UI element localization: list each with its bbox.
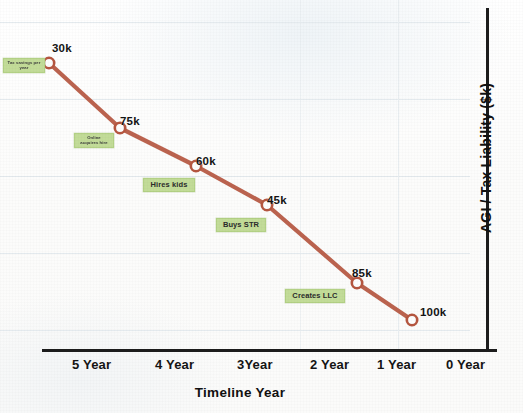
chart-page: 30k 75k 60k 45k 85k 100k Tax savings per… xyxy=(0,0,523,413)
annotation-tax-savings: Tax savings per year xyxy=(3,58,45,73)
annotation-hires-kids: Hires kids xyxy=(143,178,195,192)
x-tick-0-year: 0 Year xyxy=(446,357,485,372)
data-label-30k: 30k xyxy=(52,42,72,54)
x-tick-4-year: 4 Year xyxy=(155,357,194,372)
x-tick-5-year: 5 Year xyxy=(72,357,111,372)
x-tick-1-year: 1 Year xyxy=(377,357,416,372)
x-axis-line xyxy=(42,349,497,352)
data-point-marker xyxy=(407,315,417,325)
x-axis-title: Timeline Year xyxy=(0,385,480,400)
x-tick-2-year: 2 Year xyxy=(310,357,349,372)
data-point-marker xyxy=(352,278,362,288)
y-axis-title: AGI / Tax Liability ($k) xyxy=(478,53,494,263)
x-tick-3-year: 3Year xyxy=(237,357,273,372)
annotation-online-acquires-hire: Online acquires hire xyxy=(74,133,114,148)
data-label-85k: 85k xyxy=(352,267,372,279)
annotation-creates-llc: Creates LLC xyxy=(285,289,345,303)
data-point-marker xyxy=(44,58,54,68)
data-label-100k: 100k xyxy=(420,306,446,318)
data-label-60k: 60k xyxy=(196,155,216,167)
data-label-45k: 45k xyxy=(267,194,287,206)
annotation-buys-str: Buys STR xyxy=(216,218,266,232)
data-label-75k: 75k xyxy=(120,115,140,127)
